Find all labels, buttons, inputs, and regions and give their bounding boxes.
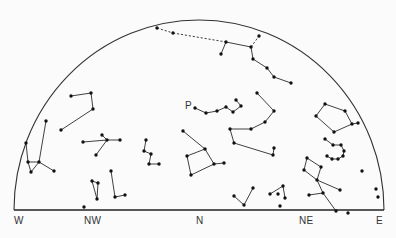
constellation-line: [251, 36, 259, 47]
constellation-line: [316, 116, 334, 132]
constellation-line: [173, 33, 226, 42]
constellation-line: [183, 131, 205, 149]
star-dot: [24, 141, 27, 144]
star-dot: [263, 120, 266, 123]
star-dot: [232, 194, 235, 197]
star-dot: [215, 109, 218, 112]
star-dot: [334, 209, 337, 212]
star-dot: [346, 211, 349, 214]
star-dot: [96, 181, 99, 184]
constellation-line: [91, 93, 93, 109]
star-dot: [239, 104, 242, 107]
star-dot: [343, 109, 346, 112]
star-dot: [171, 31, 174, 34]
star-dot: [52, 169, 55, 172]
constellation-line: [230, 129, 234, 143]
star-dot: [113, 195, 116, 198]
constellation-line: [205, 149, 214, 164]
star-dot: [181, 129, 184, 132]
constellation-line: [111, 171, 115, 197]
star-dot: [44, 119, 47, 122]
constellation-line: [39, 121, 46, 162]
star-dot: [323, 137, 326, 140]
constellation-line: [83, 140, 107, 142]
star-dot: [228, 127, 231, 130]
star-dot: [29, 170, 32, 173]
star-dot: [272, 75, 275, 78]
star-dot: [204, 111, 207, 114]
constellation-line: [191, 164, 214, 175]
constellation-line: [92, 181, 97, 199]
horizon-label-nw: NW: [84, 215, 101, 226]
sky-dome-outline: [14, 20, 384, 210]
star-dot: [307, 193, 310, 196]
star-dot: [212, 162, 215, 165]
star-dot: [376, 195, 379, 198]
constellation-line: [304, 158, 307, 170]
star-dot: [268, 192, 271, 195]
star-dot: [100, 133, 103, 136]
star-dot: [331, 143, 334, 146]
constellation-line: [270, 186, 283, 194]
star-dot: [271, 153, 274, 156]
star-dot: [144, 138, 147, 141]
star-dot: [89, 91, 92, 94]
constellation-line: [226, 42, 251, 47]
star-dot: [360, 169, 363, 172]
star-dot: [232, 141, 235, 144]
star-dot: [157, 162, 160, 165]
star-dot: [249, 127, 252, 130]
constellation-line: [71, 93, 91, 96]
star-dot: [265, 66, 268, 69]
star-dot: [272, 109, 275, 112]
star-dot: [332, 130, 335, 133]
constellation-line: [234, 143, 273, 155]
constellation-line: [234, 196, 244, 205]
constellation-line: [187, 156, 191, 175]
star-dot: [257, 34, 260, 37]
star-dot: [105, 138, 108, 141]
star-dot: [224, 105, 227, 108]
star-dot: [350, 122, 353, 125]
constellation-line: [325, 104, 345, 111]
constellation-line: [253, 59, 267, 68]
star-dot: [323, 102, 326, 105]
constellation-line: [96, 140, 107, 155]
star-dot: [319, 165, 322, 168]
star-dot: [305, 156, 308, 159]
star-dot: [59, 128, 62, 131]
star-dot: [278, 204, 281, 207]
constellation-line: [307, 158, 321, 167]
star-dot: [251, 186, 254, 189]
star-dot: [155, 26, 158, 29]
constellation-line: [251, 47, 253, 59]
constellation-line: [316, 104, 325, 116]
star-label-p: P: [185, 100, 192, 111]
star-dots: [24, 26, 379, 214]
star-dot: [149, 152, 152, 155]
star-dot: [82, 205, 85, 208]
star-dot: [219, 52, 222, 55]
constellation-line: [304, 170, 317, 180]
star-dot: [314, 114, 317, 117]
star-dot: [325, 154, 328, 157]
constellation-line: [26, 143, 28, 162]
star-dot: [94, 153, 97, 156]
star-dot: [147, 162, 150, 165]
star-dot: [231, 110, 234, 113]
star-dot: [338, 188, 341, 191]
constellation-line: [265, 111, 274, 122]
star-dot: [26, 160, 29, 163]
star-dot: [81, 140, 84, 143]
star-dot: [276, 192, 279, 195]
star-dot: [142, 149, 145, 152]
star-dot: [185, 154, 188, 157]
constellation-line: [31, 162, 39, 172]
star-dot: [339, 143, 342, 146]
star-dot: [224, 40, 227, 43]
star-dot: [189, 173, 192, 176]
star-dot: [321, 191, 324, 194]
star-dot: [37, 160, 40, 163]
star-chart: [0, 0, 396, 238]
star-dot: [289, 81, 292, 84]
